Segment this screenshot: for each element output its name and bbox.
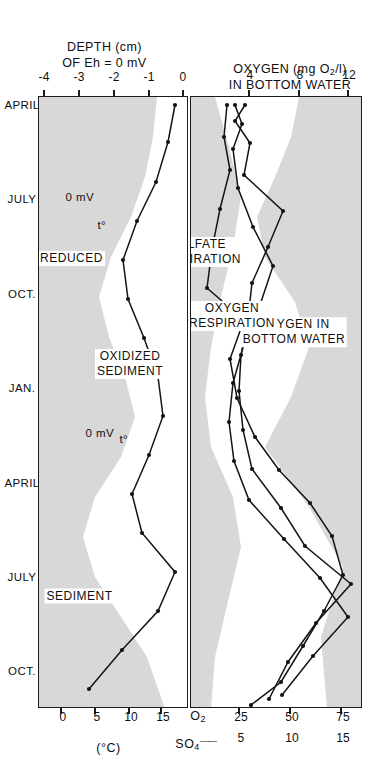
rotated-figure-canvas: OXYGEN (mg O2/l) IN BOTTOM WATER DEPTH (… (0, 0, 384, 768)
anno-sulfate-respiration-l2: RESPIRATION (190, 252, 241, 267)
series-sulfate-respiration-markers (227, 103, 350, 697)
tick-oxygen-12 (348, 90, 350, 96)
ticklabel-resp-so4-5: 5 (230, 731, 252, 745)
anno-oxygen-in-bottom-water-l2: BOTTOM WATER (243, 332, 345, 347)
anno-temperature-a: t° (97, 218, 106, 232)
panel-bottom-title: DEPTH (cm) OF Eh = 0 mV (34, 40, 174, 71)
series-oxygen-respiration-markers (233, 103, 353, 701)
anno-oxygen-respiration-l2: RESPIRATION (190, 316, 275, 331)
panel-bottom-title-line1: DEPTH (cm) (34, 40, 174, 56)
panel-depth-temperature: OXIDIZED SEDIMENT REDUCED SEDIMENT 0 mV … (38, 96, 188, 708)
axis-name-temperature-units: (°C) (89, 741, 129, 756)
ticklabel-depth-0: 0 (172, 70, 194, 84)
series-oxygen-bottom-water-markers (205, 103, 345, 707)
ticklabel-oxygen-8: 8 (289, 68, 311, 82)
panel-bottom-curves (38, 97, 187, 708)
anno-oxidized-sediment-l2: SEDIMENT (97, 364, 163, 379)
ticklabel-depth-4: -4 (33, 70, 55, 84)
time-tick-oct-2: OCT. (0, 665, 45, 677)
anno-sulfate-respiration: SULFATE RESPIRATION (190, 237, 243, 267)
time-tick-jan: JAN. (0, 382, 45, 394)
anno-oxidized-sediment: OXIDIZED SEDIMENT (95, 349, 165, 379)
ticklabel-resp-o2-75: 75 (332, 710, 354, 724)
panel-oxygen-respiration: OXYGEN IN BOTTOM WATER OXYGEN RESPIRATIO… (190, 96, 362, 708)
anno-oxidized-sediment-l1: OXIDIZED (97, 349, 163, 364)
time-tick-july-2: JULY (0, 571, 45, 583)
tick-depth-1 (149, 90, 151, 96)
time-tick-april-2: APRIL (0, 477, 45, 489)
panel-top-curves (190, 97, 361, 708)
ticklabel-depth-1: -1 (138, 70, 160, 84)
ticklabel-oxygen-4: 4 (239, 68, 261, 82)
series-oxygen-respiration (235, 105, 351, 699)
time-tick-oct-1: OCT. (0, 288, 45, 300)
figure-root: OXYGEN (mg O2/l) IN BOTTOM WATER DEPTH (… (0, 0, 384, 768)
tick-oxygen-4 (249, 90, 251, 96)
anno-zero-mv-a: 0 mV (65, 190, 94, 204)
tick-depth-0 (183, 90, 185, 96)
ticklabel-resp-o2-50: 50 (281, 710, 303, 724)
scale-head-so4: SO4—— (174, 736, 218, 753)
ticklabel-resp-so4-10: 10 (281, 731, 303, 745)
tick-depth-2 (114, 90, 116, 96)
tick-depth-4 (44, 90, 46, 96)
anno-zero-mv-b: 0 mV (85, 426, 114, 440)
ticklabel-temp-0: 0 (52, 710, 74, 724)
ticklabel-resp-o2-25: 25 (230, 710, 252, 724)
time-tick-july-1: JULY (0, 193, 45, 205)
ticklabel-depth-2: -2 (103, 70, 125, 84)
ticklabel-oxygen-12: 12 (338, 68, 360, 82)
anno-oxygen-respiration: OXYGEN RESPIRATION (190, 301, 277, 331)
tick-depth-3 (79, 90, 81, 96)
ticklabel-temp-15: 15 (152, 710, 174, 724)
anno-reduced: REDUCED (38, 251, 105, 266)
time-tick-april-1: APRIL (0, 99, 45, 111)
anno-sediment: SEDIMENT (44, 589, 114, 604)
ticklabel-temp-5: 5 (86, 710, 108, 724)
ticklabel-depth-3: -3 (68, 70, 90, 84)
ticklabel-temp-10: 10 (120, 710, 142, 724)
anno-oxygen-respiration-l1: OXYGEN (190, 301, 275, 316)
anno-temperature-b: t° (119, 432, 128, 446)
anno-sulfate-respiration-l1: SULFATE (190, 237, 241, 252)
ticklabel-resp-so4-15: 15 (332, 731, 354, 745)
scale-head-o2: O2 (181, 709, 215, 725)
tick-oxygen-8 (299, 90, 301, 96)
